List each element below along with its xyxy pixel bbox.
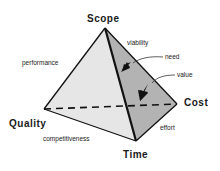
edge-label-competitiveness: competitiveness: [43, 135, 90, 143]
vertex-label-scope: Scope: [87, 13, 120, 24]
vertex-label-time: Time: [123, 149, 148, 160]
face-label-need: need: [165, 53, 180, 60]
edge-label-effort: effort: [160, 124, 175, 131]
tetrahedron-diagram: Scope Quality Time Cost performance viab…: [0, 0, 220, 171]
vertex-label-cost: Cost: [184, 97, 208, 108]
vertex-label-quality: Quality: [9, 118, 46, 129]
edge-label-viability: viability: [127, 39, 149, 47]
edge-label-performance: performance: [22, 59, 59, 67]
face-label-value: value: [177, 71, 193, 78]
